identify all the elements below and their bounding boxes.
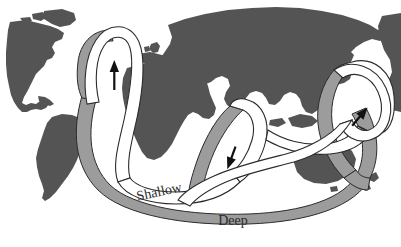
tasmania [330, 186, 338, 192]
ireland [144, 46, 150, 52]
deep-label: Deep [218, 213, 248, 228]
conveyor-belt-figure: Shallow Deep [0, 0, 401, 247]
ocean-conveyor-diagram: Shallow Deep [0, 0, 401, 247]
